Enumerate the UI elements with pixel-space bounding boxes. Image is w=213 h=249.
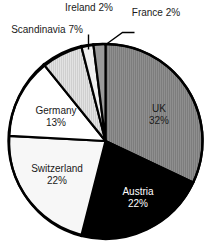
pie-label-scandinavia-name: Scandinavia (11, 24, 65, 35)
pie-label-ireland-percent: 2% (98, 2, 112, 13)
pie-label-uk-name: UK (152, 103, 166, 114)
pie-label-switzerland: Switzerland 22% (14, 163, 100, 186)
pie-label-scandinavia-percent: 7% (68, 24, 82, 35)
pie-label-ireland-name: Ireland (65, 2, 96, 13)
pie-label-switzerland-name: Switzerland (31, 163, 83, 174)
pie-label-scandinavia: Scandinavia 7% (6, 24, 88, 36)
pie-label-switzerland-percent: 22% (14, 175, 100, 187)
pie-label-germany: Germany 13% (20, 105, 92, 128)
pie-label-austria: Austria 22% (107, 186, 169, 209)
pie-label-uk-percent: 32% (135, 115, 183, 127)
pie-label-austria-name: Austria (122, 186, 153, 197)
pie-label-france-percent: 2% (166, 7, 180, 18)
pie-label-uk: UK 32% (135, 103, 183, 126)
pie-label-austria-percent: 22% (107, 198, 169, 210)
pie-label-france: France 2% (128, 7, 184, 19)
pie-label-france-name: France (132, 7, 163, 18)
pie-chart-figure: Scandinavia 7% Ireland 2% France 2% Germ… (0, 0, 213, 249)
pie-label-ireland: Ireland 2% (62, 2, 116, 14)
pie-label-germany-percent: 13% (20, 117, 92, 129)
pie-label-germany-name: Germany (35, 105, 76, 116)
